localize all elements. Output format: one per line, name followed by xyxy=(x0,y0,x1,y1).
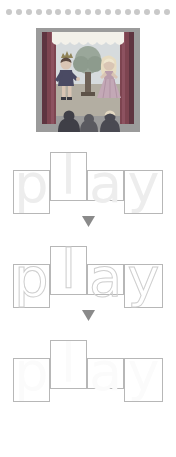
border-dot xyxy=(164,9,170,15)
border-dot xyxy=(55,9,61,15)
border-dot xyxy=(85,9,91,15)
border-dot xyxy=(125,9,131,15)
letter-box-group: p l a y xyxy=(13,152,163,214)
practice-row-blank: p l a y xyxy=(0,340,176,402)
letter-box-p[interactable] xyxy=(13,170,50,214)
worksheet-page: p l a y p l a y p l a y xyxy=(0,0,176,457)
letter-box-a[interactable] xyxy=(87,358,124,389)
letter-box-a[interactable] xyxy=(87,264,124,295)
letter-box-l[interactable] xyxy=(50,340,87,389)
letter-box-y[interactable] xyxy=(124,170,163,214)
theater-play-illustration xyxy=(36,28,140,132)
border-dot xyxy=(134,9,140,15)
border-dot xyxy=(75,9,81,15)
border-dot xyxy=(144,9,150,15)
letter-box-y[interactable] xyxy=(124,264,163,308)
letter-box-p[interactable] xyxy=(13,264,50,308)
border-dot xyxy=(46,9,52,15)
letter-box-group: p l a y xyxy=(13,246,163,308)
border-dot xyxy=(26,9,32,15)
letter-box-y[interactable] xyxy=(124,358,163,402)
theater-scene-svg xyxy=(36,28,140,132)
letter-box-p[interactable] xyxy=(13,358,50,402)
letter-box-l[interactable] xyxy=(50,152,87,201)
border-dot xyxy=(115,9,121,15)
border-dot xyxy=(65,9,71,15)
border-dot xyxy=(6,9,12,15)
border-dot xyxy=(105,9,111,15)
dot-border xyxy=(0,6,176,18)
letter-box-a[interactable] xyxy=(87,170,124,201)
letter-box-l[interactable] xyxy=(50,246,87,295)
arrow-down-1 xyxy=(82,216,95,227)
border-dot xyxy=(154,9,160,15)
arrow-down-2 xyxy=(82,310,95,321)
border-dot xyxy=(16,9,22,15)
practice-row-trace: p l a y xyxy=(0,246,176,308)
practice-row-model: p l a y xyxy=(0,152,176,214)
border-dot xyxy=(36,9,42,15)
border-dot xyxy=(95,9,101,15)
letter-box-group: p l a y xyxy=(13,340,163,402)
